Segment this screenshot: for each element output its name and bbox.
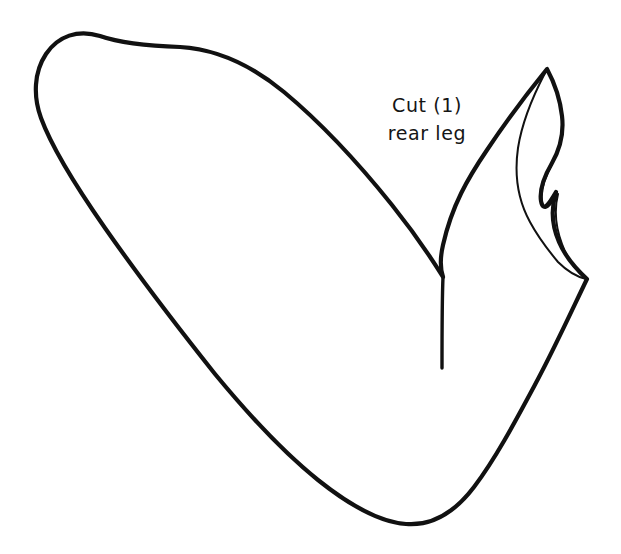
pattern-label-line-1: Cut (1) xyxy=(357,92,497,120)
pattern-slit-line xyxy=(442,277,443,368)
pattern-label-line-2: rear leg xyxy=(357,120,497,148)
rear-leg-pattern-drawing xyxy=(0,0,621,554)
pattern-label: Cut (1) rear leg xyxy=(357,92,497,147)
canvas-background xyxy=(0,0,621,554)
pattern-canvas: Cut (1) rear leg xyxy=(0,0,621,554)
